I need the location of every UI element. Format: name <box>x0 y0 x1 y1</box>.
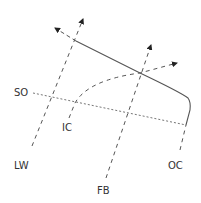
label-so: SO <box>14 87 28 98</box>
solid-curve <box>76 41 190 125</box>
label-lw: LW <box>14 160 29 171</box>
oc-line <box>180 125 186 150</box>
so-line <box>33 93 186 125</box>
fb-line <box>106 45 151 178</box>
lw-line <box>32 19 83 146</box>
diagram-canvas: SO IC LW FB OC <box>0 0 201 203</box>
upper-left-arrow-line <box>55 28 76 41</box>
label-oc: OC <box>168 160 183 171</box>
label-fb: FB <box>97 185 110 196</box>
label-ic: IC <box>62 122 72 133</box>
ic-line <box>69 63 177 118</box>
